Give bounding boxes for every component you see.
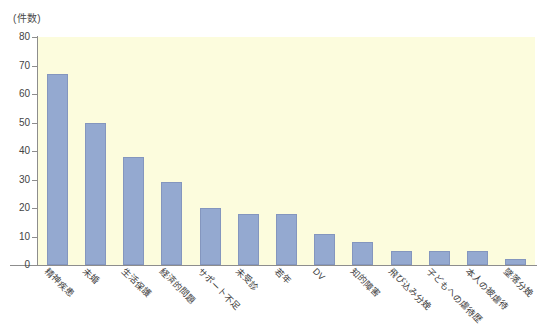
y-tick-label: 70 (6, 61, 30, 71)
y-tick-label-wrap: 10 (0, 232, 30, 242)
y-axis-unit-label: (件数) (13, 10, 41, 25)
x-axis-category-labels: 精神疾患未婚生活保護経済的問題サポート不足未受診若年DV知的障害飛び込み分娩子ど… (38, 266, 535, 325)
y-tick-label-wrap: 60 (0, 89, 30, 99)
x-axis-category-label: 未受診 (234, 266, 261, 293)
y-tick-mark (32, 37, 37, 38)
y-tick-label-wrap: 20 (0, 203, 30, 213)
x-axis-category-label: DV (311, 266, 327, 282)
y-tick-label-wrap: 40 (0, 146, 30, 156)
bar (238, 214, 259, 265)
y-tick-label: 30 (6, 175, 30, 185)
bar (467, 251, 488, 265)
y-tick-label-wrap: 80 (0, 32, 30, 42)
y-tick-label: 60 (6, 89, 30, 99)
bar (391, 251, 412, 265)
y-tick-mark (32, 265, 37, 266)
x-axis-category-label: 未婚 (81, 266, 101, 286)
y-tick-label: 80 (6, 32, 30, 42)
x-axis-category-label: 若年 (272, 266, 292, 286)
bar (505, 259, 526, 265)
y-tick-label-wrap: 30 (0, 175, 30, 185)
bar (85, 123, 106, 266)
y-tick-mark (32, 180, 37, 181)
x-axis-category-label: 墜落分娩 (502, 266, 535, 299)
y-tick-label: 50 (6, 118, 30, 128)
bar (161, 182, 182, 265)
y-tick-label-wrap: 70 (0, 61, 30, 71)
y-tick-label: 0 (6, 260, 30, 270)
bar (276, 214, 297, 265)
x-axis-category-label: 生活保護 (119, 266, 152, 299)
y-tick-mark (32, 94, 37, 95)
y-tick-mark (32, 66, 37, 67)
x-axis-category-label: 経済的問題 (158, 266, 198, 306)
y-tick-mark (32, 123, 37, 124)
bar (47, 74, 68, 265)
bar (200, 208, 221, 265)
y-tick-mark (32, 151, 37, 152)
y-tick-label-wrap: 50 (0, 118, 30, 128)
bars-group (38, 37, 535, 265)
bar (123, 157, 144, 265)
x-axis-category-label: 知的障害 (349, 266, 382, 299)
bar-chart-figure: (件数) 01020304050607080 精神疾患未婚生活保護経済的問題サポ… (0, 0, 542, 325)
y-tick-label: 10 (6, 232, 30, 242)
y-tick-label: 20 (6, 203, 30, 213)
bar (314, 234, 335, 265)
y-tick-mark (32, 208, 37, 209)
x-axis-category-label: 精神疾患 (43, 266, 76, 299)
bar (429, 251, 450, 265)
bar (352, 242, 373, 265)
y-tick-label: 40 (6, 146, 30, 156)
y-tick-mark (32, 237, 37, 238)
y-tick-label-wrap: 0 (0, 260, 30, 270)
